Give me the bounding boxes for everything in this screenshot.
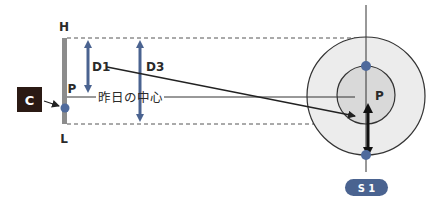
high-label: H	[59, 20, 69, 34]
c-box-label: C	[25, 93, 35, 108]
diagram-canvas: C H L P D1 D3 昨日の中心 P S 1	[0, 0, 443, 208]
left-blue-dot	[61, 104, 70, 113]
outer-bottom-dot	[361, 150, 371, 160]
d3-label: D3	[146, 60, 164, 74]
left-p-label: P	[68, 82, 77, 96]
inner-top-dot	[361, 61, 371, 71]
c-pointer-arrow	[44, 101, 59, 106]
yesterday-center-label: 昨日の中心	[98, 90, 163, 105]
s1-badge-label: S 1	[358, 183, 376, 194]
low-label: L	[60, 132, 68, 146]
d1-label: D1	[92, 60, 110, 74]
right-p-label: P	[375, 89, 384, 103]
